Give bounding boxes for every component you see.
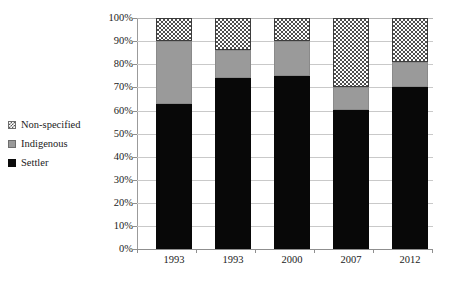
- y-tick-label: 20%: [93, 197, 133, 208]
- bar-segment-non-specified: [392, 18, 428, 62]
- bar-segment-non-specified: [215, 18, 251, 50]
- y-tick-label: 40%: [93, 151, 133, 162]
- y-tick-label: 100%: [93, 12, 133, 23]
- legend-label-non-specified: Non-specified: [21, 119, 80, 130]
- black-swatch-icon: [8, 159, 16, 167]
- y-tick-label: 50%: [93, 128, 133, 139]
- y-tick-label: 30%: [93, 174, 133, 185]
- bar-segment-non-specified: [333, 18, 369, 87]
- bar-segment-settler: [156, 104, 192, 250]
- bar-segment-non-specified: [156, 18, 192, 41]
- bar-segment-settler: [274, 76, 310, 249]
- x-axis-line: [137, 249, 433, 250]
- x-tick-label: 1993: [203, 253, 263, 266]
- y-tick-label: 0%: [93, 243, 133, 254]
- checkerboard-swatch-icon: [8, 121, 16, 129]
- y-tick-label: 70%: [93, 81, 133, 92]
- legend-label-indigenous: Indigenous: [21, 138, 68, 149]
- plot-area: [137, 18, 433, 249]
- bar-segment-non-specified: [274, 18, 310, 41]
- bar-segment-indigenous: [156, 41, 192, 103]
- bar-segment-indigenous: [274, 41, 310, 76]
- y-tick-label: 10%: [93, 220, 133, 231]
- y-axis-tick-labels: 100% 90% 80% 70% 60% 50% 40% 30% 20% 10%…: [89, 0, 133, 286]
- y-tick-label: 60%: [93, 105, 133, 116]
- gray-swatch-icon: [8, 140, 16, 148]
- bar-segment-settler: [215, 78, 251, 249]
- bar-segment-indigenous: [392, 62, 428, 87]
- legend-label-settler: Settler: [21, 157, 48, 168]
- stacked-bar-chart-figure: Non-specified Indigenous Settler 100% 90…: [0, 0, 452, 286]
- bar-segment-settler: [333, 110, 369, 249]
- bar-segment-indigenous: [215, 50, 251, 78]
- bar-segment-indigenous: [333, 87, 369, 110]
- x-axis-tick-labels: 1993 1993 2000 2007 2012: [137, 253, 433, 271]
- x-tick-label: 2000: [262, 253, 322, 266]
- x-tick-label: 1993: [144, 253, 204, 266]
- bar-segment-settler: [392, 87, 428, 249]
- x-tick-label: 2007: [321, 253, 381, 266]
- x-tick-label: 2012: [380, 253, 440, 266]
- y-tick-label: 80%: [93, 58, 133, 69]
- y-tick-label: 90%: [93, 35, 133, 46]
